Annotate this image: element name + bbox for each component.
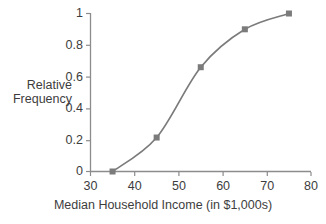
y-tick-label-0: 0 xyxy=(50,165,83,178)
data-point-marker xyxy=(154,135,160,141)
y-axis-title: Relative Frequency xyxy=(6,78,72,106)
x-axis-ticks xyxy=(91,172,312,176)
x-tick-label-50: 50 xyxy=(159,180,199,193)
x-tick-label-80: 80 xyxy=(291,180,326,193)
y-axis-ticks xyxy=(86,14,90,172)
x-axis-title: Median Household Income (in $1,000s) xyxy=(0,198,326,212)
x-tick-label-60: 60 xyxy=(203,180,243,193)
x-tick-label-40: 40 xyxy=(115,180,155,193)
x-tick-label-30: 30 xyxy=(71,180,111,193)
chart-container: 1 0.8 0.6 0.4 0.2 0 30 40 50 60 70 80 Re… xyxy=(0,0,326,224)
data-point-marker xyxy=(110,169,116,175)
data-point-markers xyxy=(110,11,292,175)
x-tick-label-70: 70 xyxy=(247,180,287,193)
data-point-marker xyxy=(242,26,248,32)
y-axis-title-line-2: Frequency xyxy=(6,92,72,106)
y-tick-label-0-2: 0.2 xyxy=(50,134,83,147)
data-point-marker xyxy=(286,11,292,17)
y-axis-title-line-1: Relative xyxy=(6,78,72,92)
y-tick-label-0-8: 0.8 xyxy=(50,39,83,52)
data-series-curve xyxy=(113,14,289,172)
y-tick-label-1: 1 xyxy=(50,7,83,20)
data-point-marker xyxy=(198,64,204,70)
